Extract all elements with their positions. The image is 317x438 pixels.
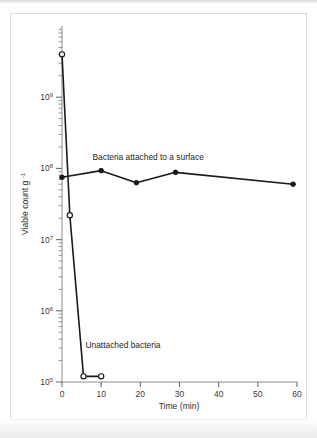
figure-root: 105106107108109 0102030405060 Bacteria a… <box>0 0 317 438</box>
y-axis-title: Viable count g -1 <box>20 173 30 235</box>
data-point-1-3 <box>173 170 178 175</box>
data-point-0-2 <box>81 374 86 379</box>
annotation-layer: Bacteria attached to a surfaceUnattached… <box>86 152 205 350</box>
series-annotation-1: Unattached bacteria <box>86 340 161 350</box>
x-axis-title-text: Time (min) <box>159 401 200 411</box>
data-point-1-1 <box>99 168 104 173</box>
x-tick-label: 30 <box>175 389 185 399</box>
data-point-0-0 <box>59 52 64 57</box>
data-point-0-1 <box>67 213 72 218</box>
data-point-0-3 <box>99 374 104 379</box>
series-annotation-0: Bacteria attached to a surface <box>93 152 205 162</box>
axes-group <box>62 26 297 382</box>
y-tick-label: 105 <box>40 377 53 387</box>
x-tick-label: 40 <box>214 389 224 399</box>
chart-plot-area: 105106107108109 0102030405060 Bacteria a… <box>0 0 317 438</box>
x-axis-ticks <box>62 382 297 387</box>
scan-artifact-bottom <box>0 418 317 438</box>
x-tick-label: 60 <box>292 389 302 399</box>
data-series-layer <box>59 52 295 379</box>
y-tick-label: 106 <box>40 306 53 316</box>
y-axis-tick-labels: 105106107108109 <box>40 92 53 387</box>
x-tick-label: 10 <box>96 389 106 399</box>
y-tick-label: 109 <box>40 92 53 102</box>
x-tick-label: 0 <box>60 389 65 399</box>
x-axis-title: Time (min) <box>159 401 200 411</box>
x-tick-label: 20 <box>136 389 146 399</box>
data-point-1-4 <box>291 182 296 187</box>
x-tick-label: 50 <box>253 389 263 399</box>
y-axis-ticks <box>56 29 62 382</box>
y-tick-label: 108 <box>40 163 53 173</box>
y-tick-label: 107 <box>40 235 53 245</box>
data-point-1-2 <box>134 180 139 185</box>
data-point-1-0 <box>60 175 65 180</box>
x-axis-tick-labels: 0102030405060 <box>60 389 302 399</box>
y-axis-title-text: Viable count g -1 <box>20 173 30 235</box>
